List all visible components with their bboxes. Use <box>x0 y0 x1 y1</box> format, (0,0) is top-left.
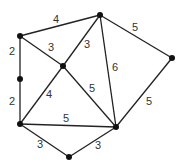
edge-weight-label: 5 <box>132 21 138 33</box>
node-H <box>66 154 72 160</box>
edge-C-F <box>20 66 63 124</box>
weighted-graph: 4322365455533 <box>0 0 186 168</box>
edge-weight-label: 2 <box>9 45 15 57</box>
edge-weight-label: 3 <box>48 41 54 53</box>
edge-F-H <box>20 124 69 157</box>
edge-weight-label: 5 <box>89 82 95 94</box>
edges <box>20 15 172 157</box>
edge-weight-label: 5 <box>146 95 152 107</box>
edge-weight-label: 3 <box>95 139 101 151</box>
edge-weight-label: 4 <box>53 13 59 25</box>
edge-E-G <box>116 58 172 127</box>
edge-A-C <box>20 36 63 66</box>
node-D <box>17 76 23 82</box>
node-G <box>113 124 119 130</box>
node-A <box>17 33 23 39</box>
node-E <box>169 55 175 61</box>
edge-weight-label: 4 <box>46 88 52 100</box>
edge-H-G <box>69 127 116 157</box>
edge-weight-label: 3 <box>84 38 90 50</box>
edge-F-G <box>20 124 116 127</box>
node-C <box>60 63 66 69</box>
edge-A-B <box>20 15 100 36</box>
edge-weight-label: 6 <box>112 61 118 73</box>
node-B <box>97 12 103 18</box>
edge-weight-label: 5 <box>63 112 69 124</box>
edge-weight-label: 3 <box>37 138 43 150</box>
node-F <box>17 121 23 127</box>
edge-weight-label: 2 <box>9 95 15 107</box>
